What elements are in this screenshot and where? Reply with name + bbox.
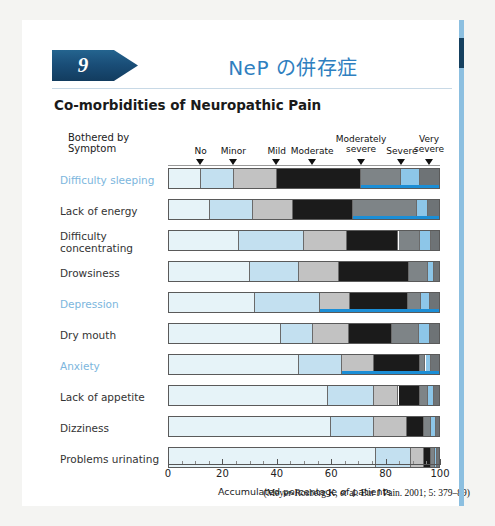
x-tick-0 <box>168 459 169 464</box>
bar-segment-minor <box>201 169 233 188</box>
table-row: Depression <box>30 288 454 319</box>
legend-label-very-severe: Very severe <box>408 134 450 154</box>
chart-subtitle: Co-morbidities of Neuropathic Pain <box>54 97 321 113</box>
y-axis-title-line1: Bothered by <box>68 132 129 143</box>
bar-segment-no <box>169 355 299 374</box>
stacked-bar <box>168 230 440 251</box>
x-tick-label-20: 20 <box>216 468 229 479</box>
bar-segment-mild <box>374 386 398 405</box>
stacked-bar <box>168 199 440 220</box>
bar-segment-no <box>169 200 210 219</box>
bar-segment-mild <box>299 262 340 281</box>
slide-right-edge-marker <box>459 38 464 68</box>
bar-segment-minor <box>281 324 313 343</box>
row-label-depression: Depression <box>60 298 168 310</box>
x-tick-label-0: 0 <box>165 468 171 479</box>
bar-segment-no <box>169 324 281 343</box>
row-label-problems-urinating: Problems urinating <box>60 453 168 465</box>
bar-segment-minor <box>250 262 299 281</box>
bar-segment-severe <box>419 324 430 343</box>
x-minor-tick <box>290 461 291 464</box>
bar-segment-moderate <box>349 324 392 343</box>
x-minor-tick <box>413 461 414 464</box>
highlight-underline <box>353 216 439 220</box>
bar-segment-very-severe <box>436 417 439 436</box>
x-minor-tick <box>250 461 251 464</box>
bar-segment-moderate <box>347 231 398 250</box>
x-minor-tick <box>345 461 346 464</box>
x-tick-100 <box>440 459 441 464</box>
bar-segment-minor <box>299 355 342 374</box>
slide-page: 9 NeP の併存症 Co-morbidities of Neuropathic… <box>0 0 495 526</box>
x-axis-ticks <box>168 459 441 464</box>
bar-segment-no <box>169 231 239 250</box>
x-minor-tick <box>426 461 427 464</box>
bar-segment-very-severe <box>430 324 439 343</box>
bar-segment-moderate <box>399 386 421 405</box>
x-axis-line <box>168 464 441 465</box>
bar-segment-moderate <box>407 417 425 436</box>
table-row: Drowsiness <box>30 257 454 288</box>
x-minor-tick <box>209 461 210 464</box>
highlight-underline <box>342 371 439 375</box>
table-row: Dry mouth <box>30 319 454 350</box>
x-tick-20 <box>222 459 223 464</box>
bar-segment-mild <box>253 200 294 219</box>
x-minor-tick <box>236 461 237 464</box>
comorbidity-chart: Bothered by Symptom NoMinorMildModerateM… <box>30 128 454 498</box>
bar-segment-moderate <box>339 262 409 281</box>
slide-card: 9 NeP の併存症 Co-morbidities of Neuropathic… <box>22 20 462 506</box>
x-minor-tick <box>304 461 305 464</box>
bar-segment-very-severe <box>434 386 439 405</box>
highlight-underline <box>361 185 439 189</box>
row-label-dry-mouth: Dry mouth <box>60 329 168 341</box>
bar-segment-moderately-severe <box>424 417 431 436</box>
table-row: Difficulty sleeping <box>30 164 454 195</box>
stacked-bar <box>168 354 440 375</box>
bar-segment-minor <box>331 417 374 436</box>
bar-segment-minor <box>210 200 253 219</box>
bar-segment-moderate <box>293 200 352 219</box>
x-minor-tick <box>318 461 319 464</box>
x-tick-60 <box>331 459 332 464</box>
x-minor-tick <box>263 461 264 464</box>
bar-segment-moderately-severe <box>409 262 428 281</box>
y-axis-title-line2: Symptom <box>68 143 116 154</box>
x-minor-tick <box>399 461 400 464</box>
title-divider <box>52 88 452 89</box>
x-minor-tick <box>372 461 373 464</box>
stacked-bar <box>168 292 440 313</box>
bar-segment-no <box>169 169 201 188</box>
bar-segment-no <box>169 262 250 281</box>
bar-segment-no <box>169 293 255 312</box>
bar-segment-moderately-severe <box>420 386 428 405</box>
bar-segment-moderate <box>277 169 361 188</box>
stacked-bar <box>168 323 440 344</box>
x-minor-tick <box>195 461 196 464</box>
stacked-bar <box>168 385 440 406</box>
bar-segment-very-severe <box>431 231 439 250</box>
table-row: Lack of appetite <box>30 381 454 412</box>
x-tick-label-80: 80 <box>379 468 392 479</box>
slide-right-edge <box>459 20 464 506</box>
table-row: Dizziness <box>30 412 454 443</box>
table-row: Anxiety <box>30 350 454 381</box>
x-minor-tick <box>182 461 183 464</box>
y-axis-title: Bothered by Symptom <box>68 132 129 154</box>
bar-segment-severe <box>420 231 431 250</box>
table-row: Difficulty concentrating <box>30 226 454 257</box>
row-label-dizziness: Dizziness <box>60 422 168 434</box>
x-tick-80 <box>386 459 387 464</box>
bar-segment-no <box>169 417 331 436</box>
stacked-bar <box>168 168 440 189</box>
bar-segment-mild <box>234 169 277 188</box>
stacked-bar <box>168 261 440 282</box>
bar-segment-moderately-severe <box>392 324 419 343</box>
stacked-bar <box>168 416 440 437</box>
bar-segment-mild <box>304 231 347 250</box>
bar-segment-minor <box>328 386 374 405</box>
x-minor-tick <box>358 461 359 464</box>
bar-segment-moderately-severe <box>399 231 421 250</box>
slide-title: NeP の併存症 <box>138 52 448 81</box>
highlight-underline <box>320 309 439 313</box>
